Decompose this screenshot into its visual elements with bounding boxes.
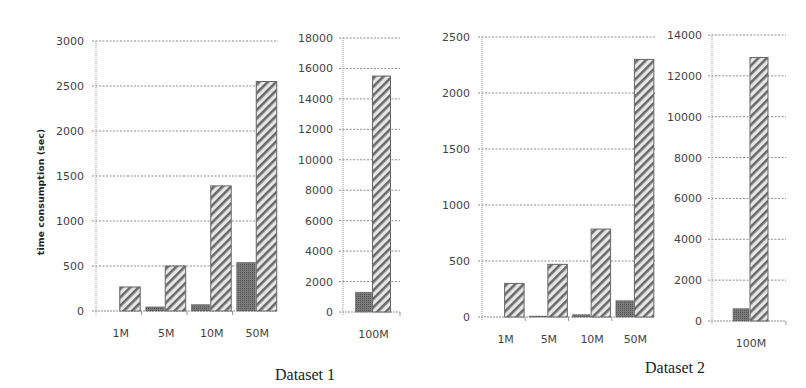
y-tick-label: 3000 xyxy=(56,35,84,48)
y-tick-label: 0 xyxy=(77,305,84,318)
bar-dark xyxy=(529,316,546,317)
y-tick-label: 500 xyxy=(63,260,84,273)
bar-dark xyxy=(356,292,372,312)
bar-hatched xyxy=(750,57,768,321)
y-tick-label: 14000 xyxy=(298,93,333,106)
y-tick-label: 2000 xyxy=(305,276,333,289)
y-tick-label: 10000 xyxy=(298,154,333,167)
bar-hatched xyxy=(165,266,185,311)
x-tick-label: 5M xyxy=(158,327,175,340)
y-tick-label: 4000 xyxy=(305,245,333,258)
bar-dark xyxy=(146,307,164,311)
y-tick-label: 10000 xyxy=(667,111,702,124)
y-tick-label: 2000 xyxy=(56,125,84,138)
y-axis-label: time consumption (sec) xyxy=(35,129,46,255)
y-tick-label: 2500 xyxy=(442,31,470,44)
bar-hatched xyxy=(211,186,231,311)
bar-hatched xyxy=(634,59,653,317)
x-tick-label: 1M xyxy=(113,327,130,340)
y-tick-label: 2000 xyxy=(674,274,702,287)
bar-dark xyxy=(191,305,209,311)
y-tick-label: 18000 xyxy=(298,32,333,45)
y-tick-label: 1500 xyxy=(56,170,84,183)
y-tick-label: 0 xyxy=(326,306,333,319)
y-tick-label: 14000 xyxy=(667,29,702,42)
y-tick-label: 1000 xyxy=(442,199,470,212)
bar-hatched xyxy=(591,229,610,317)
bar-dark xyxy=(573,315,590,317)
x-tick-label: 100M xyxy=(736,337,767,350)
bar-hatched xyxy=(256,82,276,312)
y-tick-label: 8000 xyxy=(674,152,702,165)
x-tick-label: 5M xyxy=(541,333,558,346)
bar-hatched xyxy=(120,287,140,311)
y-tick-label: 12000 xyxy=(298,123,333,136)
bar-hatched xyxy=(548,264,567,317)
chart-figure: 0500100015002000250030001M5M10M50M020004… xyxy=(0,0,806,388)
y-tick-label: 500 xyxy=(449,255,470,268)
y-tick-label: 0 xyxy=(695,315,702,328)
bar-dark xyxy=(237,262,255,311)
y-tick-label: 0 xyxy=(463,311,470,324)
y-tick-label: 4000 xyxy=(674,233,702,246)
y-tick-label: 2500 xyxy=(56,80,84,93)
bar-hatched xyxy=(505,283,524,317)
y-tick-label: 8000 xyxy=(305,184,333,197)
x-tick-label: 1M xyxy=(497,333,514,346)
y-tick-label: 12000 xyxy=(667,70,702,83)
x-tick-label: 10M xyxy=(580,333,604,346)
y-tick-label: 2000 xyxy=(442,87,470,100)
chart-caption: Dataset 1 xyxy=(275,366,335,383)
chart-caption: Dataset 2 xyxy=(645,359,705,376)
bar-hatched xyxy=(373,76,391,312)
bar-dark xyxy=(733,309,749,321)
x-tick-label: 100M xyxy=(358,328,389,341)
y-tick-label: 1500 xyxy=(442,143,470,156)
x-tick-label: 50M xyxy=(246,327,270,340)
x-tick-label: 10M xyxy=(200,327,224,340)
y-tick-label: 6000 xyxy=(674,192,702,205)
bar-dark xyxy=(616,301,633,317)
y-tick-label: 1000 xyxy=(56,215,84,228)
x-tick-label: 50M xyxy=(624,333,648,346)
y-tick-label: 16000 xyxy=(298,62,333,75)
y-tick-label: 6000 xyxy=(305,215,333,228)
